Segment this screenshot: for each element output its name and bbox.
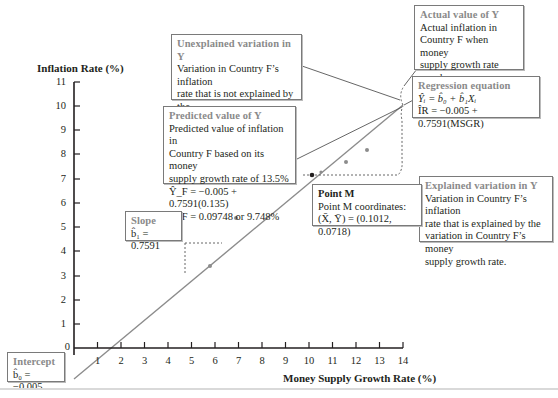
annotation-explained-variation: Explained variation in Y Variation in Co…: [419, 176, 553, 242]
annotation-predicted-value: Predicted value of Y Predicted value of …: [163, 106, 296, 184]
bottom-rule: [0, 388, 558, 390]
x-tick-label: 14: [395, 355, 411, 366]
annotation-regression-equation: Regression equation Ŷᵢ = b̂₀ + b̂₁Xᵢ ÎR …: [412, 76, 540, 118]
x-tick-label: 3: [137, 355, 153, 366]
x-tick-label: 4: [160, 355, 176, 366]
y-tick-label: 6: [50, 197, 66, 208]
x-axis-title: Money Supply Growth Rate (%): [283, 372, 436, 384]
x-tick-label: 1: [90, 355, 106, 366]
x-tick-label: 6: [207, 355, 223, 366]
leader-lines: [295, 65, 420, 201]
unexplained-variation-bracket: [401, 86, 404, 105]
y-tick-label: 11: [50, 76, 66, 87]
y-axis-title: Inflation Rate (%): [37, 62, 124, 74]
annotation-actual-value: Actual value of Y Actual inflation in Co…: [414, 5, 524, 70]
y-axis-ticks: [74, 106, 80, 324]
point-m-marker: [310, 173, 315, 178]
y-tick-label: 2: [50, 294, 66, 305]
x-tick-label: 5: [184, 355, 200, 366]
y-tick-label: 4: [50, 245, 66, 256]
x-tick-label: 7: [231, 355, 247, 366]
annotation-title: Actual value of Y: [420, 9, 518, 22]
y-tick-label: 8: [50, 148, 66, 159]
x-tick-label: 11: [325, 355, 341, 366]
y-tick-label: 7: [50, 173, 66, 184]
explained-variation-bracket: [303, 106, 403, 175]
y-tick-label: 9: [50, 124, 66, 135]
x-axis-ticks: [98, 342, 404, 348]
y-tick-label: 10: [50, 100, 66, 111]
annotation-intercept: Intercept b̂₀ = −0.005: [7, 352, 65, 382]
y-tick-label: 0: [54, 341, 70, 352]
y-tick-label: 1: [50, 318, 66, 329]
annotation-slope: Slope b̂₁ = 0.7591: [125, 211, 182, 241]
x-tick-label: 8: [254, 355, 270, 366]
x-tick-label: 9: [278, 355, 294, 366]
annotation-unexplained-variation: Unexplained variation in Y Variation in …: [171, 34, 302, 100]
x-tick-label: 10: [301, 355, 317, 366]
slope-triangle: [185, 243, 222, 273]
y-tick-label: 5: [50, 221, 66, 232]
annotation-point-m: Point M Point M coordinates: (X̄, Ȳ) = (…: [312, 184, 422, 226]
x-tick-label: 12: [348, 355, 364, 366]
y-tick-label: 3: [50, 270, 66, 281]
x-tick-label: 13: [372, 355, 388, 366]
x-tick-label: 2: [113, 355, 129, 366]
